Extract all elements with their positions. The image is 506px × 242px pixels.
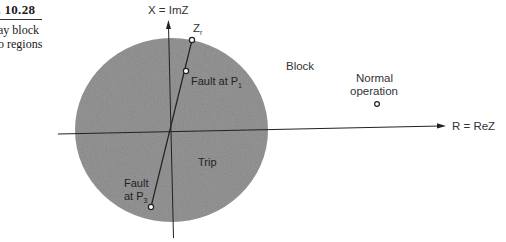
r-axis-arrow-icon <box>437 123 446 128</box>
x-axis-arrow-icon <box>166 20 171 29</box>
x-axis-label: R = ReZ <box>452 120 495 132</box>
y-axis-label: X = ImZ <box>148 4 189 16</box>
fault-p3-point <box>148 204 153 209</box>
fault-p3-label-1: Fault <box>124 177 148 189</box>
normal-operation-label-1: Normal <box>356 72 393 84</box>
fault-p1-point <box>183 68 188 73</box>
impedance-plane-diagram: X = ImZ R = ReZ Zr Fault at P1 Block Tri… <box>0 0 506 242</box>
zr-label: Zr <box>193 22 203 36</box>
normal-operation-label-2: operation <box>350 85 398 97</box>
zr-point <box>189 37 194 42</box>
trip-region-label: Trip <box>198 156 217 168</box>
block-region-label: Block <box>286 60 314 72</box>
normal-operation-point <box>375 102 380 107</box>
fault-p1-label: Fault at P1 <box>191 75 242 89</box>
